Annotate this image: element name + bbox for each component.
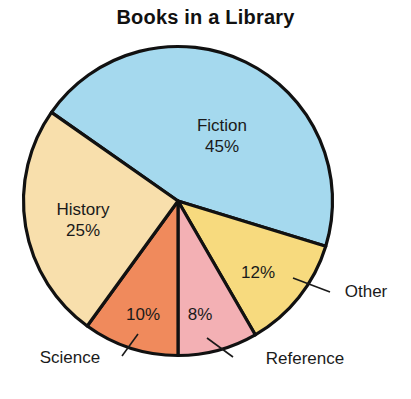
callout-label-science: Science [40, 348, 100, 367]
slice-label-science-value: 10% [126, 305, 160, 324]
pie-chart-figure: Books in a Library Fiction 45% History 2… [0, 0, 411, 399]
slice-label-reference-value: 8% [188, 305, 213, 324]
pie-chart-svg: Fiction 45% History 25% 10% 8% 12% Scien… [0, 0, 411, 399]
callout-label-other: Other [345, 282, 388, 301]
callout-label-reference: Reference [266, 349, 344, 368]
slice-label-other-value: 12% [241, 263, 275, 282]
slice-label-history-name: History [57, 200, 110, 219]
slice-label-history-value: 25% [66, 221, 100, 240]
slice-label-fiction-name: Fiction [197, 116, 247, 135]
slice-label-fiction-value: 45% [205, 137, 239, 156]
